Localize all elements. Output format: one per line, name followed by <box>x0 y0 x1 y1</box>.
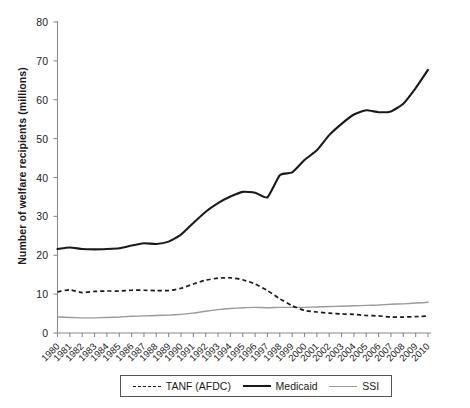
legend-item-medicaid: Medicaid <box>243 380 318 392</box>
thick-line-swatch-icon <box>243 385 271 387</box>
gray-line-swatch-icon <box>329 386 357 387</box>
dashed-line-swatch-icon <box>133 386 161 387</box>
legend-item-tanf: TANF (AFDC) <box>133 380 231 392</box>
legend-item-ssi: SSI <box>329 380 379 392</box>
chart-legend: TANF (AFDC) Medicaid SSI <box>120 375 392 397</box>
legend-label-medicaid: Medicaid <box>276 380 318 392</box>
legend-label-ssi: SSI <box>362 380 379 392</box>
legend-label-tanf: TANF (AFDC) <box>166 380 231 392</box>
welfare-recipients-line-chart: Number of welfare recipients (millions) … <box>0 0 470 408</box>
x-axis-tick-labels: 1980198119821983198419851986198719881989… <box>0 0 470 408</box>
